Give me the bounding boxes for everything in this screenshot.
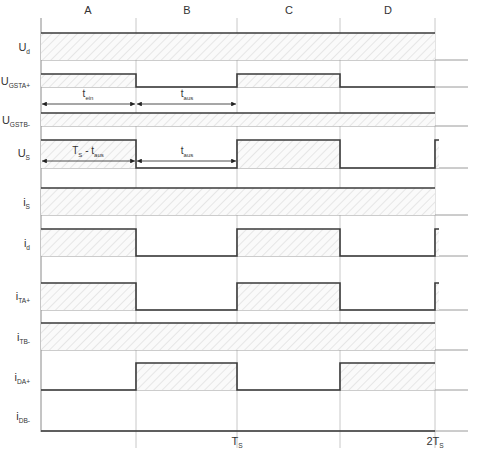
signal-row-ida: iDA+ [15,363,468,390]
signal-label: UGSTA+ [1,75,30,89]
phase-header: A [84,4,92,16]
signal-label: iDB- [16,410,30,424]
active-region [41,113,435,126]
signal-label: iTB- [17,331,30,345]
phase-header: B [183,4,190,16]
signal-label: id [24,237,30,251]
duration-label: taus [181,88,193,101]
active-region [41,323,435,350]
time-axis-label: TS [231,435,243,449]
timing-diagram: UdUGSTA+UGSTB-USiSidiTA+iTB-iDA+iDB- tei… [0,0,483,460]
time-axis-label: 2TS [426,435,444,449]
duration-label: tein [83,88,94,101]
active-region [237,283,340,310]
active-region [41,229,136,256]
time-axis-labels: TS2TS [231,435,444,449]
active-region [237,140,340,168]
signal-label: Ud [18,41,30,55]
signal-row-itb: iTB- [17,323,468,350]
signal-row-ud: Ud [18,33,468,60]
signal-row-is: iS [23,188,468,215]
signal-label: iTA+ [16,290,30,304]
active-region [41,188,435,215]
signal-row-id: id [24,229,468,256]
duration-label: taus [181,145,193,158]
active-region [237,74,340,87]
signal-label: UGSTB- [2,114,30,128]
signal-row-idb: iDB- [16,410,468,431]
active-region [41,283,136,310]
active-region [41,74,136,87]
signal-rows: UdUGSTA+UGSTB-USiSidiTA+iTB-iDA+iDB- [1,33,468,431]
active-region [136,363,237,390]
phase-header: D [384,4,392,16]
active-region [340,363,435,390]
signal-row-ita: iTA+ [16,283,468,310]
signal-row-ugsta: UGSTA+ [1,74,468,89]
signal-row-ugstb: UGSTB- [2,113,468,128]
signal-label: US [18,147,31,161]
active-region [237,229,340,256]
column-headers: ABCD [84,4,392,16]
phase-header: C [285,4,293,16]
active-region [41,33,435,60]
signal-label: iDA+ [15,371,31,385]
signal-label: iS [23,196,30,210]
